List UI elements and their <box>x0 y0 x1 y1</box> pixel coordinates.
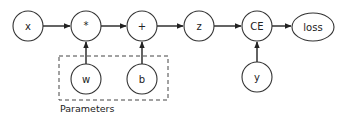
node-cross-entropy: CE <box>242 11 272 41</box>
svg-text:y: y <box>254 72 260 83</box>
svg-text:w: w <box>82 74 90 85</box>
parameters-label: Parameters <box>60 103 114 114</box>
computation-graph: Parameters x * + z CE loss w b y <box>0 0 351 116</box>
node-y: y <box>242 62 272 92</box>
node-multiply: * <box>71 11 101 41</box>
svg-text:z: z <box>196 21 201 32</box>
svg-text:x: x <box>25 21 31 32</box>
node-w: w <box>71 64 101 94</box>
node-add: + <box>127 11 157 41</box>
svg-text:*: * <box>84 20 89 31</box>
node-loss: loss <box>292 13 334 41</box>
svg-text:+: + <box>138 21 146 32</box>
svg-text:b: b <box>139 74 145 85</box>
node-x: x <box>13 11 43 41</box>
node-z: z <box>184 11 214 41</box>
svg-text:CE: CE <box>250 21 263 32</box>
node-b: b <box>127 64 157 94</box>
svg-text:loss: loss <box>303 22 322 33</box>
